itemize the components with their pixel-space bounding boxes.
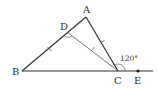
label-e: E (134, 75, 141, 86)
label-d: D (60, 21, 68, 32)
tick-mark-dc (92, 47, 95, 51)
point-e-dot (136, 69, 139, 72)
geometry-diagram: A B C D E 120° (0, 0, 157, 94)
segment-ab (22, 17, 86, 71)
segment-dc (67, 32, 118, 71)
angle-label-120: 120° (120, 54, 138, 63)
label-c: C (114, 75, 122, 86)
label-a: A (82, 4, 91, 15)
segment-ac (86, 17, 118, 71)
label-b: B (12, 66, 19, 77)
